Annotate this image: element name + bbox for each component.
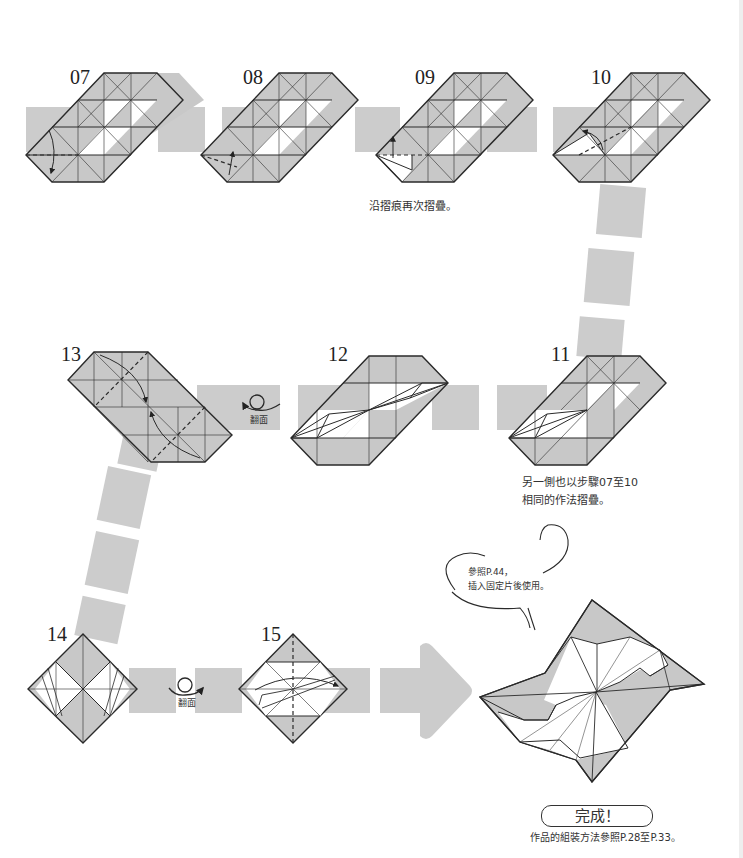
- diagram-canvas: [0, 0, 743, 858]
- step-number-12: 12: [328, 343, 348, 366]
- speech-bubble-line-2: 插入固定片後使用。: [468, 579, 549, 593]
- step-11-note-line-2: 相同的作法摺疊。: [522, 492, 638, 510]
- step-number-13: 13: [61, 343, 81, 366]
- step-number-15: 15: [261, 623, 281, 646]
- completion-badge: 完成！: [541, 805, 653, 827]
- step-11-note: 另一側也以步驟07至10 相同的作法摺疊。: [522, 474, 638, 510]
- step-number-11: 11: [551, 343, 570, 366]
- flip-label: 翻面: [178, 696, 196, 709]
- speech-bubble-line-1: 參照P.44，: [468, 565, 549, 579]
- diagram-finished-model: [480, 600, 704, 782]
- step-number-07: 07: [70, 66, 90, 89]
- speech-bubble-text: 參照P.44， 插入固定片後使用。: [468, 565, 549, 593]
- flip-label: 翻面: [250, 413, 268, 426]
- diagram-step-14: [28, 634, 137, 743]
- step-09-note: 沿摺痕再次摺疊。: [369, 198, 457, 216]
- step-number-10: 10: [591, 66, 611, 89]
- step-number-08: 08: [243, 66, 263, 89]
- step-11-note-line-1: 另一側也以步驟07至10: [522, 474, 638, 492]
- completion-caption: 作品的組裝方法參照P.28至P.33。: [530, 829, 681, 847]
- step-number-14: 14: [47, 623, 67, 646]
- diagram-step-15: [239, 634, 347, 743]
- big-arrow-icon: [392, 643, 472, 739]
- step-number-09: 09: [415, 66, 435, 89]
